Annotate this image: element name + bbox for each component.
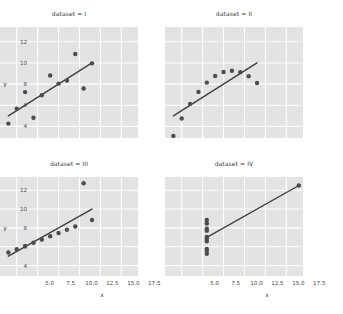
x-tick-label: 17.5 bbox=[143, 280, 165, 286]
y-tick-label: 6 bbox=[9, 244, 27, 250]
facet-panel-ii: dataset = II bbox=[165, 10, 303, 138]
plot-area-ii bbox=[165, 27, 303, 138]
data-point bbox=[255, 81, 259, 85]
data-point bbox=[31, 116, 35, 120]
anscombe-quartet-figure: dataset = I4681012ydataset = IIdataset =… bbox=[0, 0, 343, 314]
facet-panel-iv: dataset = IV bbox=[165, 160, 303, 276]
data-point bbox=[40, 237, 44, 241]
x-tick-label: 12.5 bbox=[101, 280, 123, 286]
data-point bbox=[65, 228, 69, 232]
data-point bbox=[171, 134, 175, 138]
y-axis-label: y bbox=[0, 79, 10, 86]
data-point bbox=[48, 234, 52, 238]
data-point bbox=[246, 74, 250, 78]
data-point bbox=[205, 236, 209, 240]
data-point bbox=[213, 74, 217, 78]
y-tick-label: 12 bbox=[9, 39, 27, 45]
data-point bbox=[23, 90, 27, 94]
facet-panel-iii: dataset = III bbox=[0, 160, 138, 276]
data-point bbox=[73, 52, 77, 56]
x-tick-label: 15.0 bbox=[287, 280, 309, 286]
data-point bbox=[31, 241, 35, 245]
regression-line bbox=[207, 185, 299, 237]
data-point bbox=[180, 116, 184, 120]
facet-panel-i: dataset = I bbox=[0, 10, 138, 138]
y-tick-label: 10 bbox=[9, 60, 27, 66]
data-point bbox=[56, 231, 60, 235]
facet-title-i: dataset = I bbox=[0, 10, 138, 17]
y-tick-label: 8 bbox=[9, 225, 27, 231]
data-point bbox=[81, 181, 85, 185]
facet-title-ii: dataset = II bbox=[165, 10, 303, 17]
data-point bbox=[188, 102, 192, 106]
data-point bbox=[205, 249, 209, 253]
x-tick-label: 10.0 bbox=[81, 280, 103, 286]
data-point bbox=[230, 69, 234, 73]
x-tick-label: 7.5 bbox=[225, 280, 247, 286]
data-point bbox=[90, 61, 94, 65]
data-point bbox=[90, 218, 94, 222]
data-point bbox=[297, 183, 301, 187]
x-tick-label: 5.0 bbox=[204, 280, 226, 286]
data-point bbox=[221, 70, 225, 74]
y-tick-label: 6 bbox=[9, 102, 27, 108]
data-point bbox=[196, 90, 200, 94]
y-tick-label: 4 bbox=[9, 263, 27, 269]
plot-area-iv bbox=[165, 177, 303, 276]
data-point bbox=[205, 80, 209, 84]
data-point bbox=[56, 81, 60, 85]
x-tick-label: 17.5 bbox=[308, 280, 330, 286]
y-tick-label: 10 bbox=[9, 206, 27, 212]
x-axis-label: x bbox=[92, 291, 112, 298]
x-tick-label: 15.0 bbox=[122, 280, 144, 286]
data-point bbox=[81, 86, 85, 90]
x-tick-label: 5.0 bbox=[39, 280, 61, 286]
y-tick-label: 4 bbox=[9, 123, 27, 129]
x-tick-label: 12.5 bbox=[266, 280, 288, 286]
data-point bbox=[40, 93, 44, 97]
x-axis-label: x bbox=[257, 291, 277, 298]
x-tick-label: 10.0 bbox=[246, 280, 268, 286]
data-point bbox=[205, 221, 209, 225]
data-point bbox=[238, 70, 242, 74]
facet-title-iv: dataset = IV bbox=[165, 160, 303, 167]
y-tick-label: 8 bbox=[9, 81, 27, 87]
data-point bbox=[48, 73, 52, 77]
data-point bbox=[65, 78, 69, 82]
data-point bbox=[6, 250, 10, 254]
y-tick-label: 12 bbox=[9, 187, 27, 193]
x-tick-label: 7.5 bbox=[60, 280, 82, 286]
data-point bbox=[205, 227, 209, 231]
data-point bbox=[73, 224, 77, 228]
y-axis-label: y bbox=[0, 223, 10, 230]
facet-title-iii: dataset = III bbox=[0, 160, 138, 167]
